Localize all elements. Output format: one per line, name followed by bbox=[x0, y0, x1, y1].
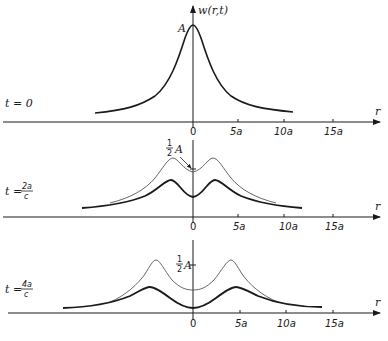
tick-label-15a: 15a bbox=[325, 221, 344, 232]
y-axis-label: w(r,t) bbox=[198, 4, 228, 17]
thin-curve bbox=[110, 260, 278, 302]
half-denominator: 2 bbox=[177, 265, 182, 274]
half-denominator: 2 bbox=[167, 149, 172, 158]
panel-t4a-c: 1 2 A r t = 4a c 0 5a 10a 15a bbox=[5, 240, 381, 329]
tick-label-0: 0 bbox=[190, 318, 196, 329]
tick-label-5a: 5a bbox=[233, 221, 246, 232]
pulse-curve bbox=[95, 25, 293, 113]
svg-text:t =: t = bbox=[5, 283, 22, 296]
svg-text:c: c bbox=[24, 192, 29, 201]
panel-t2a-c: 1 2 A r t = 2a c 0 5a 10a 15a bbox=[3, 139, 381, 232]
tick-label-10a: 10a bbox=[277, 318, 296, 329]
pointer-arrow bbox=[180, 157, 191, 168]
svg-text:c: c bbox=[24, 290, 29, 299]
wave-diagram: A w(r,t) r t = 0 0 5a 10a 15a 1 2 A r t … bbox=[0, 0, 388, 341]
x-axis-label: r bbox=[375, 200, 381, 213]
x-axis-label: r bbox=[375, 105, 381, 118]
time-label-1: t = 0 bbox=[5, 97, 33, 110]
half-numerator: 1 bbox=[167, 139, 172, 148]
svg-text:2a: 2a bbox=[22, 182, 32, 191]
half-amplitude-label: A bbox=[183, 259, 192, 272]
thick-curve bbox=[82, 180, 302, 208]
svg-text:4a: 4a bbox=[22, 280, 32, 289]
panel-t0: A w(r,t) r t = 0 0 5a 10a 15a bbox=[3, 4, 381, 137]
tick-label-15a: 15a bbox=[325, 318, 344, 329]
tick-label-5a: 5a bbox=[230, 126, 243, 137]
ticks bbox=[190, 169, 333, 217]
tick-label-10a: 10a bbox=[274, 126, 293, 137]
tick-label-0: 0 bbox=[190, 221, 196, 232]
tick-label-15a: 15a bbox=[324, 126, 343, 137]
amplitude-label: A bbox=[177, 22, 186, 35]
half-numerator: 1 bbox=[177, 255, 182, 264]
tick-label-5a: 5a bbox=[235, 318, 248, 329]
half-amplitude-label: A bbox=[174, 143, 183, 156]
ticks bbox=[190, 265, 333, 313]
tick-label-0: 0 bbox=[190, 126, 196, 137]
x-axis-label: r bbox=[375, 296, 381, 309]
time-label-3: t = 4a c bbox=[5, 280, 33, 299]
tick-label-10a: 10a bbox=[279, 221, 298, 232]
svg-text:t =: t = bbox=[5, 185, 22, 198]
time-label-2: t = 2a c bbox=[5, 182, 33, 201]
